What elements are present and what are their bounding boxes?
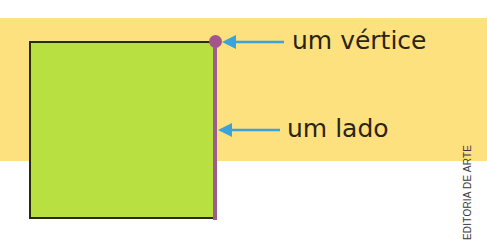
vertex-label: um vértice — [292, 28, 426, 53]
side-label: um lado — [287, 116, 389, 141]
arrow-to-side-icon — [218, 123, 280, 137]
square-shape — [29, 41, 215, 219]
image-credit: EDITORIA DE ARTE — [463, 145, 473, 240]
arrow-to-vertex-icon — [222, 35, 284, 49]
highlighted-side — [213, 42, 217, 220]
vertex-dot — [209, 35, 222, 48]
